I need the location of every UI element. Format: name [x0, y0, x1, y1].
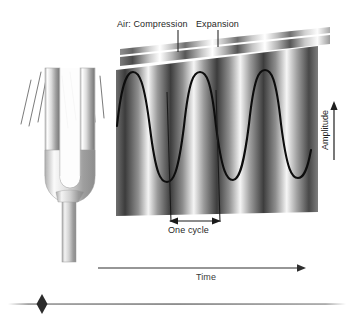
amplitude-axis-arrow — [330, 101, 337, 160]
time-axis-arrow — [98, 264, 306, 272]
label-amplitude-axis: Amplitude — [320, 110, 330, 150]
diagram-svg — [0, 0, 355, 320]
label-compression: Air: Compression — [117, 19, 188, 29]
fork-stem — [62, 196, 76, 262]
tuning-fork-icon — [21, 68, 104, 262]
figure-canvas: Air: Compression Expansion One cycle Tim… — [0, 0, 355, 320]
bottom-rule-ornament — [8, 294, 346, 314]
one-cycle-dimension-arrow — [169, 218, 221, 225]
label-one-cycle: One cycle — [168, 225, 209, 235]
diamond-ornament-icon — [37, 294, 48, 314]
label-expansion: Expansion — [196, 19, 239, 29]
label-time-axis: Time — [196, 272, 216, 282]
fork-inner-highlight — [60, 68, 80, 186]
